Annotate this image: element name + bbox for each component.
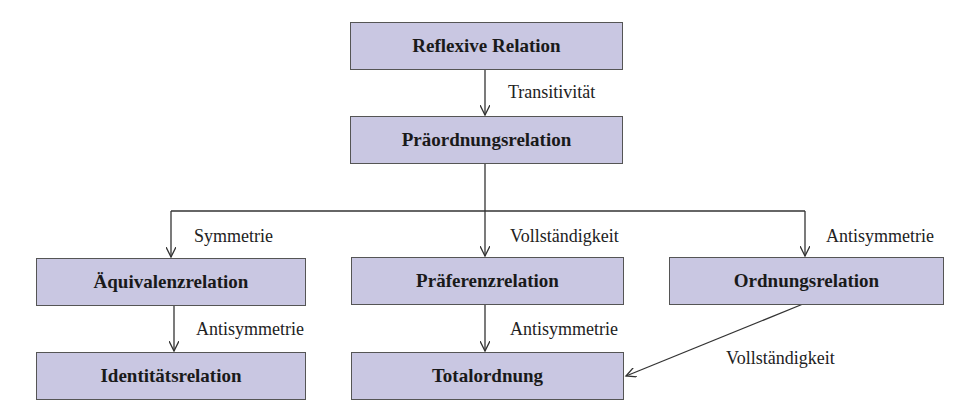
node-order-relation: Ordnungsrelation [669, 257, 944, 305]
edge-label-antisymmetry-total: Antisymmetrie [510, 319, 618, 340]
node-equivalence-relation: Äquivalenzrelation [36, 258, 306, 306]
edge-label-completeness-total: Vollständigkeit [726, 348, 835, 369]
edge-label-completeness: Vollständigkeit [510, 226, 619, 247]
edge-label-symmetry: Symmetrie [194, 226, 273, 247]
node-identity-relation: Identitätsrelation [36, 352, 306, 400]
edge-label-antisymmetry-identity: Antisymmetrie [196, 319, 304, 340]
edge-label-transitivity: Transitivität [508, 82, 595, 103]
node-preorder-relation: Präordnungsrelation [350, 116, 623, 164]
node-preference-relation: Präferenzrelation [351, 257, 624, 305]
node-reflexive-relation: Reflexive Relation [350, 22, 623, 70]
node-total-order: Totalordnung [351, 352, 624, 400]
edge-label-antisymmetry-order: Antisymmetrie [826, 226, 934, 247]
